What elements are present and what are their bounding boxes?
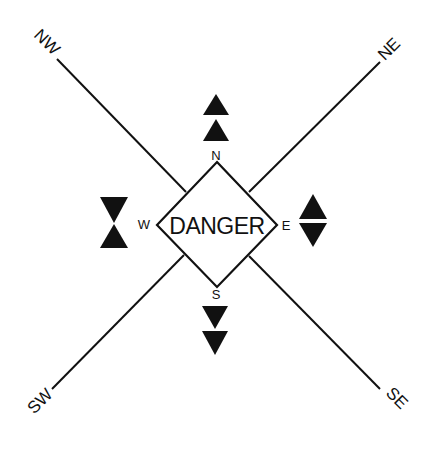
- south-cone-lower-icon: [202, 331, 228, 355]
- east-topmark-icon: [299, 194, 327, 247]
- north-topmark-icon: [203, 94, 229, 141]
- east-cone-lower-icon: [299, 223, 327, 247]
- cardinal-marks-diagram: NW NE SW SE DANGER N E S W: [0, 0, 431, 452]
- south-topmark-icon: [202, 306, 228, 355]
- south-label: S: [212, 287, 221, 302]
- northwest-line: [57, 59, 186, 192]
- northwest-label: NW: [30, 25, 63, 58]
- southwest-label: SW: [24, 385, 57, 418]
- southeast-line: [249, 256, 380, 389]
- south-cone-upper-icon: [202, 306, 228, 329]
- north-label: N: [211, 148, 220, 163]
- danger-label: DANGER: [169, 213, 264, 239]
- west-cone-lower-icon: [100, 224, 128, 248]
- east-cone-upper-icon: [299, 194, 327, 219]
- north-cone-upper-icon: [203, 94, 229, 115]
- north-cone-lower-icon: [203, 119, 229, 141]
- east-label: E: [282, 218, 291, 233]
- northeast-label: NE: [374, 34, 404, 64]
- west-topmark-icon: [100, 197, 128, 248]
- west-cone-upper-icon: [100, 197, 128, 223]
- southeast-label: SE: [382, 383, 411, 412]
- west-label: W: [138, 217, 151, 232]
- southwest-line: [52, 255, 184, 389]
- northeast-line: [249, 62, 380, 192]
